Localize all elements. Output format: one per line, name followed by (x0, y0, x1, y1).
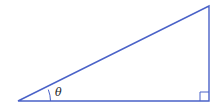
right-triangle-diagram (0, 0, 220, 107)
right-angle-marker (200, 92, 209, 101)
angle-arc (48, 90, 50, 101)
triangle (18, 6, 209, 101)
angle-theta-label: θ (55, 86, 62, 99)
